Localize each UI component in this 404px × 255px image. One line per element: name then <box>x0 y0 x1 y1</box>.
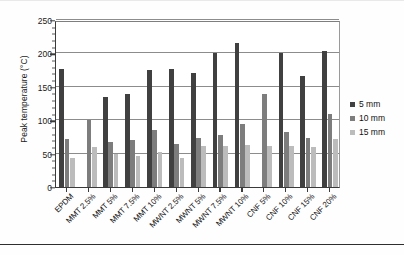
bar <box>65 139 70 187</box>
legend-swatch-icon <box>350 116 355 121</box>
bar-group <box>147 22 162 187</box>
figure-top-edge <box>0 0 404 1</box>
bar-group <box>103 22 118 187</box>
bar <box>311 147 316 187</box>
x-axis-tick-mark <box>154 188 155 192</box>
x-axis-tick-mark <box>329 188 330 192</box>
bar <box>235 43 240 187</box>
bar <box>92 147 97 187</box>
bar-group <box>213 22 228 187</box>
bar <box>196 138 201 187</box>
chart-legend: 5 mm10 mm15 mm <box>350 97 385 139</box>
bar <box>152 130 157 187</box>
x-axis-tick-mark <box>66 188 67 192</box>
x-axis-tick-mark <box>219 188 220 192</box>
y-axis-tick-label: 100 <box>8 116 52 126</box>
bar <box>147 70 152 187</box>
x-axis-tick-mark <box>307 188 308 192</box>
bar <box>223 146 228 187</box>
gridline <box>56 19 339 20</box>
chart-figure: Peak temperature (°C) 050100150200250 EP… <box>0 0 404 255</box>
bar <box>306 138 311 187</box>
bar <box>180 158 185 187</box>
bar <box>87 120 92 187</box>
bar <box>130 140 135 187</box>
bar-group <box>81 22 96 187</box>
bar <box>59 69 64 187</box>
y-axis-tick-label: 150 <box>8 83 52 93</box>
bar <box>169 69 174 187</box>
figure-bottom-rule <box>0 244 404 245</box>
y-axis-tick-label: 250 <box>8 16 52 26</box>
bar <box>245 145 250 187</box>
bar <box>289 146 294 187</box>
bar-group <box>169 22 184 187</box>
bar <box>333 139 338 187</box>
y-axis-tick-label: 200 <box>8 49 52 59</box>
legend-label: 10 mm <box>359 113 385 123</box>
bar <box>300 76 305 187</box>
x-axis-tick-mark <box>285 188 286 192</box>
bar-group <box>191 22 206 187</box>
bar <box>240 124 245 187</box>
bar <box>108 142 113 187</box>
bar-group <box>235 22 250 187</box>
bar-group <box>322 22 337 187</box>
bar <box>218 135 223 187</box>
y-axis-tick-label: 50 <box>8 150 52 160</box>
bar <box>191 73 196 187</box>
x-axis-tick-mark <box>88 188 89 192</box>
x-axis-tick-mark <box>241 188 242 192</box>
legend-item: 10 mm <box>350 111 385 125</box>
bar <box>136 156 141 187</box>
bar <box>322 51 327 187</box>
bar <box>267 146 272 187</box>
bar <box>70 158 75 187</box>
legend-label: 15 mm <box>359 127 385 137</box>
bar-group <box>125 22 140 187</box>
legend-item: 5 mm <box>350 97 385 111</box>
bar <box>262 94 267 187</box>
legend-label: 5 mm <box>359 99 380 109</box>
bar <box>213 53 218 187</box>
bar <box>174 144 179 187</box>
x-axis-tick-mark <box>132 188 133 192</box>
legend-swatch-icon <box>350 102 355 107</box>
y-axis-tick-label: 0 <box>8 183 52 193</box>
x-axis-tick-mark <box>263 188 264 192</box>
bar <box>114 154 119 187</box>
bar-group <box>257 22 272 187</box>
plot-area <box>55 21 340 188</box>
bar <box>279 53 284 187</box>
legend-item: 15 mm <box>350 125 385 139</box>
x-axis-tick-mark <box>198 188 199 192</box>
bar <box>201 146 206 187</box>
x-axis-tick-mark <box>176 188 177 192</box>
bar-group <box>279 22 294 187</box>
legend-swatch-icon <box>350 130 355 135</box>
bar <box>125 94 130 187</box>
bar <box>158 152 163 187</box>
bar <box>328 114 333 187</box>
bar <box>284 132 289 187</box>
bar-group <box>300 22 315 187</box>
bar-group <box>59 22 74 187</box>
x-axis-tick-mark <box>110 188 111 192</box>
bar <box>103 97 108 187</box>
